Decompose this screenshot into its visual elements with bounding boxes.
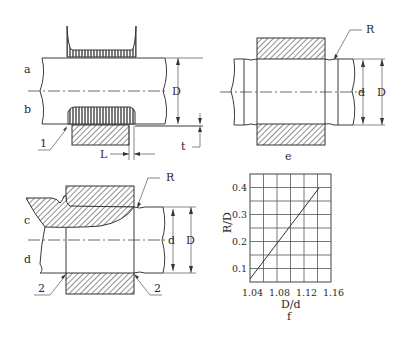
chart-grid (250, 174, 331, 282)
series-line (250, 188, 319, 279)
panel-e: d D R e (220, 23, 386, 163)
label-b: b (24, 103, 31, 116)
x-tick: 1.08 (269, 287, 290, 298)
x-tick: 1.12 (296, 287, 317, 298)
callout-1: 1 (40, 137, 47, 150)
label-L: L (100, 148, 108, 161)
label-a: a (24, 63, 31, 76)
hatched-ring-top (257, 38, 325, 59)
caption-f: f (287, 310, 292, 323)
panel-ab: D t L 1 a b (24, 26, 203, 161)
panel-cd: d D R 2 2 c d (24, 171, 196, 295)
hatched-ring-bottom (257, 124, 325, 145)
callout-2-left: 2 (38, 282, 45, 295)
label-D: D (172, 85, 181, 98)
y-axis-label: R/D (221, 212, 234, 233)
crimped-collar-top (67, 26, 136, 57)
label-c: c (24, 214, 30, 227)
caption-e: e (285, 150, 292, 163)
y-tick: 0.2 (232, 236, 247, 247)
x-tick: 1.16 (323, 287, 344, 298)
label-t: t (181, 140, 186, 153)
x-tick: 1.04 (242, 287, 263, 298)
label-d: d (358, 86, 365, 99)
chart-f: 0.4 0.3 0.2 0.1 1.04 1.08 1.12 1.16 D/d … (221, 174, 344, 323)
hatched-sleeve-segment (72, 125, 129, 145)
label-D: D (377, 86, 386, 99)
y-tick: 0.4 (232, 182, 247, 193)
label-d: d (168, 234, 175, 247)
label-D: D (186, 234, 195, 247)
hatched-ring-top (66, 186, 134, 207)
callout-2-right: 2 (154, 282, 161, 295)
label-R: R (366, 23, 375, 36)
label-d-side: d (24, 253, 31, 266)
crimped-collar-bottom (68, 107, 135, 124)
y-tick: 0.1 (232, 263, 247, 274)
technical-drawing: D t L 1 a b (0, 0, 403, 337)
y-tick: 0.3 (232, 209, 247, 220)
label-R: R (166, 171, 175, 184)
hatched-ring-bottom (66, 273, 134, 294)
